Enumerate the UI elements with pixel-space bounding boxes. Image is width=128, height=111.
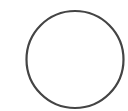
circle-outline-icon xyxy=(27,11,124,108)
circle-canvas xyxy=(0,0,128,111)
